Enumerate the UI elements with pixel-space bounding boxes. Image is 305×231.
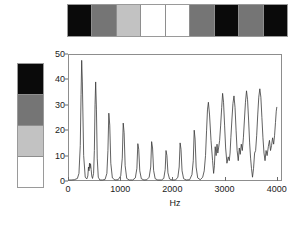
x-axis-title: Hz <box>68 199 282 208</box>
strip-segment-1-dark-gray <box>91 5 115 36</box>
y-tick-mark-50 <box>65 54 68 55</box>
x-tick-label-0: 0 <box>65 185 70 194</box>
x-tick-label-3000: 3000 <box>215 185 235 194</box>
strip-segment-3-white <box>140 5 164 36</box>
strip-segment-5-dark-gray <box>189 5 213 36</box>
strip-segment-7-dark-gray <box>238 5 262 36</box>
legend-cell-1-dark-gray <box>18 94 43 125</box>
y-tick-label-50: 50 <box>55 50 65 59</box>
y-tick-label-10: 10 <box>55 151 65 160</box>
x-tick-mark-4000 <box>277 177 278 181</box>
x-tick-label-2000: 2000 <box>162 185 182 194</box>
y-tick-mark-20 <box>65 130 68 131</box>
legend-cell-3-white <box>18 156 43 187</box>
x-tick-label-1000: 1000 <box>110 185 130 194</box>
legend-cell-0-black <box>18 64 43 94</box>
spectrum-chart <box>68 54 282 181</box>
y-tick-mark-40 <box>65 79 68 80</box>
strip-segment-2-light-gray <box>116 5 140 36</box>
y-tick-mark-10 <box>65 155 68 156</box>
strip-segment-6-black <box>214 5 238 36</box>
x-tick-mark-1000 <box>120 177 121 181</box>
grayscale-pattern-strip <box>67 4 288 37</box>
y-tick-label-40: 40 <box>55 75 65 84</box>
legend-cell-2-light-gray <box>18 125 43 156</box>
y-tick-label-20: 20 <box>55 126 65 135</box>
x-tick-mark-3000 <box>225 177 226 181</box>
spectrum-line <box>68 54 282 181</box>
x-tick-label-4000: 4000 <box>267 185 287 194</box>
y-axis: 01020304050 <box>44 54 65 181</box>
strip-segment-8-black <box>263 5 287 36</box>
grayscale-level-key <box>17 63 44 188</box>
x-axis: 01000200030004000 <box>68 182 282 196</box>
y-tick-mark-30 <box>65 104 68 105</box>
x-tick-mark-0 <box>68 177 69 181</box>
strip-segment-0-black <box>68 5 91 36</box>
x-tick-mark-2000 <box>172 177 173 181</box>
y-tick-label-30: 30 <box>55 100 65 109</box>
strip-segment-4-white <box>165 5 189 36</box>
